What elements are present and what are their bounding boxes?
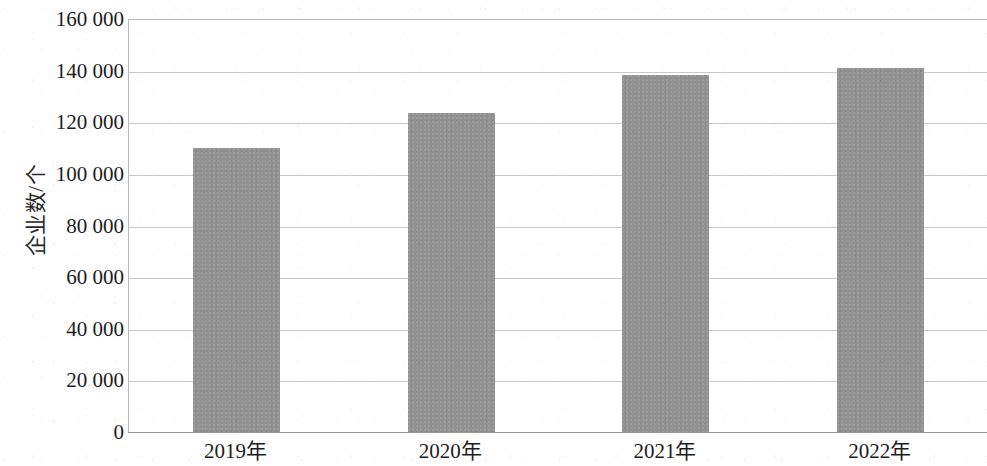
bar <box>408 113 495 432</box>
bar-chart: 企业数/个 020 00040 00060 00080 000100 00012… <box>0 0 987 466</box>
y-tick-label: 140 000 <box>20 60 124 81</box>
x-tick-label: 2020年 <box>343 437 558 465</box>
bar <box>837 68 924 432</box>
y-tick-label: 60 000 <box>20 267 124 288</box>
y-tick-label: 120 000 <box>20 112 124 133</box>
bars-group <box>129 20 987 432</box>
y-tick-label: 20 000 <box>20 370 124 391</box>
y-tick-label: 40 000 <box>20 318 124 339</box>
plot-area <box>128 19 987 432</box>
bar <box>193 148 280 432</box>
y-axis-tick-labels: 020 00040 00060 00080 000100 000120 0001… <box>20 0 124 466</box>
y-tick-label: 0 <box>20 422 124 443</box>
x-tick-label: 2019年 <box>128 437 343 465</box>
y-tick-label: 160 000 <box>20 9 124 30</box>
x-axis-line <box>128 432 987 433</box>
y-tick-label: 100 000 <box>20 163 124 184</box>
y-tick-label: 80 000 <box>20 215 124 236</box>
x-tick-label: 2022年 <box>772 437 987 465</box>
bar <box>622 75 709 433</box>
x-axis-tick-labels: 2019年2020年2021年2022年 <box>128 437 987 466</box>
x-tick-label: 2021年 <box>558 437 773 465</box>
